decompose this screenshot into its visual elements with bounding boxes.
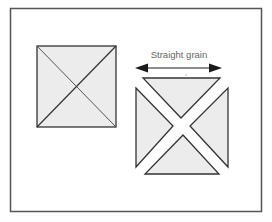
straight-grain-label: Straight grain [151, 49, 208, 60]
grain-dot [185, 74, 186, 75]
uncut-square [37, 46, 116, 127]
quilt-square-grain-diagram: Straight grain [0, 0, 272, 222]
caption-cut-off [10, 216, 262, 222]
